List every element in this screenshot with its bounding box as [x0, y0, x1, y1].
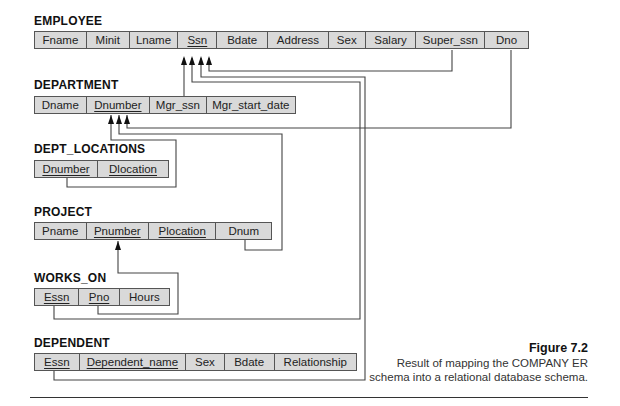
relation-title-project: PROJECT	[34, 205, 92, 219]
arrow-icon	[116, 115, 122, 124]
relation-dependent: Essn Dependent_name Sex Bdate Relationsh…	[34, 353, 357, 371]
relation-department: Dname Dnumber Mgr_ssn Mgr_start_date	[34, 96, 296, 114]
attr-address: Address	[268, 32, 329, 48]
attr-sex: Sex	[186, 354, 225, 370]
relation-title-works-on: WORKS_ON	[34, 271, 106, 285]
relation-works-on: Essn Pno Hours	[34, 288, 170, 306]
arrow-icon	[124, 115, 130, 124]
caption-line-1: Result of mapping the COMPANY ER	[369, 357, 588, 369]
attr-sex: Sex	[329, 32, 366, 48]
relation-dept-locations: Dnumber Dlocation	[34, 160, 169, 178]
attr-dnumber: Dnumber	[87, 97, 151, 113]
attr-bdate: Bdate	[225, 354, 275, 370]
attr-pname: Pname	[35, 223, 87, 239]
attr-pnumber: Pnumber	[87, 223, 149, 239]
fk-line-super-ssn	[209, 50, 452, 71]
attr-dependent-name: Dependent_name	[80, 354, 186, 370]
relation-title-department: DEPARTMENT	[34, 78, 118, 92]
attr-salary: Salary	[366, 32, 417, 48]
arrow-icon	[115, 241, 121, 250]
bottom-rule	[30, 397, 588, 398]
attr-dlocation: Dlocation	[98, 161, 168, 177]
attr-dno: Dno	[485, 32, 528, 48]
relation-title-dependent: DEPENDENT	[34, 336, 110, 350]
caption-line-2: schema into a relational database schema…	[369, 371, 588, 383]
arrow-icon	[198, 56, 204, 65]
arrow-icon	[108, 115, 114, 124]
attr-mgr-start-date: Mgr_start_date	[207, 97, 295, 113]
attr-ssn: Ssn	[178, 32, 217, 48]
attr-relationship: Relationship	[275, 354, 356, 370]
attr-lname: Lname	[130, 32, 179, 48]
relation-employee: Fname Minit Lname Ssn Bdate Address Sex …	[34, 31, 529, 49]
attr-essn: Essn	[35, 354, 80, 370]
attr-mgr-ssn: Mgr_ssn	[150, 97, 207, 113]
relation-title-dept-locations: DEPT_LOCATIONS	[34, 142, 145, 156]
figure-number: Figure 7.2	[369, 341, 588, 355]
attr-dnumber: Dnumber	[35, 161, 98, 177]
figure-caption: Figure 7.2 Result of mapping the COMPANY…	[369, 341, 588, 383]
attr-pno: Pno	[79, 289, 119, 305]
attr-minit: Minit	[87, 32, 130, 48]
relation-project: Pname Pnumber Plocation Dnum	[34, 222, 272, 240]
relation-title-employee: EMPLOYEE	[34, 14, 102, 28]
attr-fname: Fname	[35, 32, 87, 48]
attr-essn: Essn	[35, 289, 79, 305]
arrow-icon	[181, 56, 187, 65]
arrow-icon	[206, 56, 212, 65]
attr-dnum: Dnum	[216, 223, 271, 239]
attr-plocation: Plocation	[149, 223, 216, 239]
attr-dname: Dname	[35, 97, 87, 113]
attr-super-ssn: Super_ssn	[416, 32, 485, 48]
arrow-icon	[189, 56, 195, 65]
attr-hours: Hours	[120, 289, 169, 305]
attr-bdate: Bdate	[217, 32, 268, 48]
